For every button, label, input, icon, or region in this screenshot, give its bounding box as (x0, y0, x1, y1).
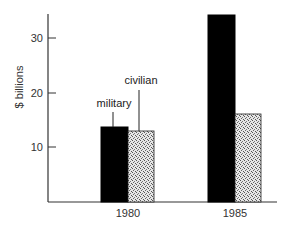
bar-chart: 10 20 30 $ billions 1980 1985 military c… (0, 0, 289, 229)
xtick-1980: 1980 (116, 207, 140, 219)
xtick-1985: 1985 (223, 207, 247, 219)
ytick-20: 20 (31, 87, 43, 99)
annotation-military: military (97, 97, 132, 109)
bar-1985-civilian (235, 114, 261, 202)
ytick-10: 10 (31, 141, 43, 153)
y-ticks: 10 20 30 (31, 32, 56, 153)
ytick-30: 30 (31, 32, 43, 44)
bar-1980-civilian (128, 131, 154, 202)
bar-1985-military (208, 15, 235, 202)
y-axis-label: $ billions (13, 65, 25, 108)
annotation-civilian: civilian (124, 74, 157, 86)
bar-1980-military (101, 127, 128, 202)
